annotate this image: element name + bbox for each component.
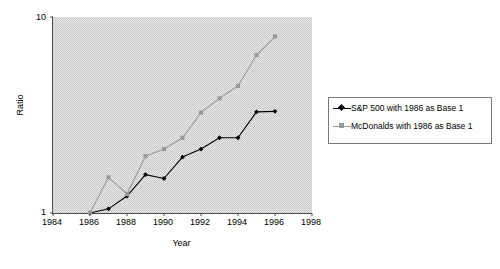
legend-key-square-marker bbox=[333, 122, 351, 132]
x-axis-title: Year bbox=[52, 238, 311, 248]
data-point bbox=[254, 53, 258, 57]
plot-area bbox=[52, 17, 312, 214]
x-axis-tick-label-1998: 1998 bbox=[291, 217, 331, 227]
legend-entry-sp500: S&P 500 with 1986 as Base 1 bbox=[333, 103, 487, 114]
x-axis-tick-label-1984: 1984 bbox=[32, 217, 72, 227]
data-point bbox=[217, 135, 222, 140]
axis-tick-marks bbox=[50, 17, 312, 216]
series-group bbox=[88, 34, 278, 215]
data-point bbox=[162, 147, 166, 151]
data-point bbox=[180, 136, 184, 140]
data-point bbox=[125, 192, 129, 196]
legend-label-sp500: S&P 500 with 1986 as Base 1 bbox=[351, 103, 487, 113]
data-point bbox=[236, 84, 240, 88]
data-point bbox=[273, 34, 277, 38]
x-axis-tick-label-1986: 1986 bbox=[69, 217, 109, 227]
chart-figure: Ratio 10 1 1984 1986 1988 1990 1992 1994… bbox=[0, 0, 500, 269]
y-axis-tick-label-10: 10 bbox=[16, 12, 46, 22]
data-point bbox=[106, 175, 110, 179]
x-axis-tick-label-1990: 1990 bbox=[143, 217, 183, 227]
series-line-0 bbox=[90, 111, 275, 213]
plot-series-canvas bbox=[53, 17, 312, 213]
legend-label-mcdonalds: McDonalds with 1986 as Base 1 bbox=[351, 121, 487, 131]
data-point bbox=[143, 154, 147, 158]
x-axis-tick-label-1996: 1996 bbox=[254, 217, 294, 227]
x-axis-tick-label-1992: 1992 bbox=[180, 217, 220, 227]
data-point bbox=[273, 109, 278, 114]
data-point bbox=[199, 147, 204, 152]
x-axis-tick-label-1988: 1988 bbox=[106, 217, 146, 227]
x-axis-tick-label-1994: 1994 bbox=[217, 217, 257, 227]
data-point bbox=[199, 111, 203, 115]
data-point bbox=[217, 96, 221, 100]
y-axis-tick-label-1: 1 bbox=[16, 207, 46, 217]
legend-entry-mcdonalds: McDonalds with 1986 as Base 1 bbox=[333, 121, 487, 132]
legend-key-diamond-marker bbox=[333, 104, 351, 114]
chart-legend: S&P 500 with 1986 as Base 1 McDonalds wi… bbox=[328, 97, 492, 144]
y-axis-title: Ratio bbox=[15, 75, 25, 135]
